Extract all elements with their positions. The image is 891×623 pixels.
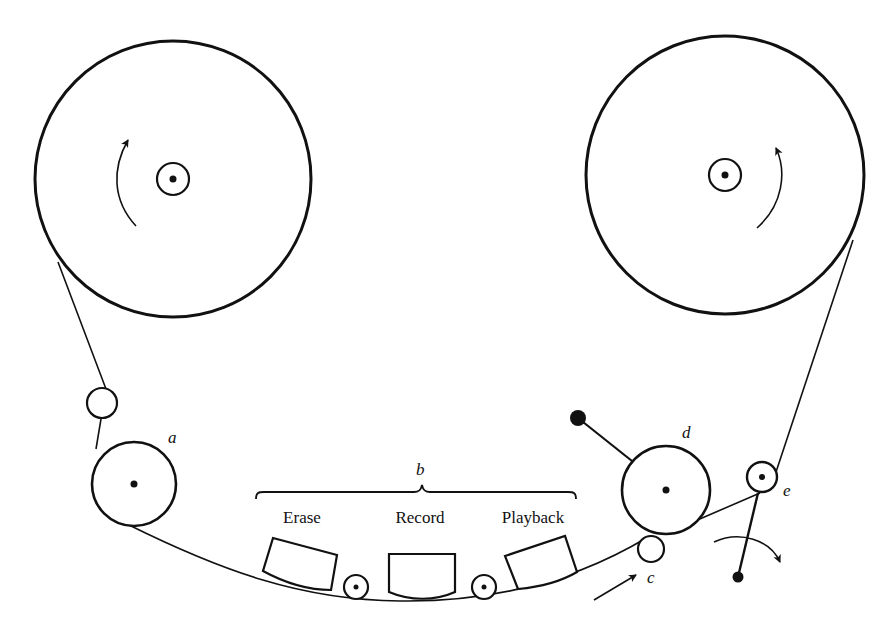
capstan-arm-pivot xyxy=(570,410,586,426)
counterclockwise-arrow-icon xyxy=(117,140,136,226)
heads-brace xyxy=(256,485,576,499)
label-erase: Erase xyxy=(283,508,321,528)
tape-path xyxy=(58,240,853,601)
supply-reel-spindle xyxy=(170,176,177,183)
guide-roller-1 xyxy=(344,575,368,599)
takeup-reel xyxy=(586,36,864,314)
label-b: b xyxy=(416,460,425,480)
roller-a xyxy=(92,442,176,526)
tape-transport-diagram: a b c d e Erase Record Playback xyxy=(0,0,891,623)
label-a: a xyxy=(168,428,177,448)
pinch-roller-c xyxy=(638,536,664,562)
guide-roller-2 xyxy=(472,575,496,599)
tension-arm-e xyxy=(714,462,780,583)
takeup-reel-spindle xyxy=(722,172,729,179)
tension-arm-pivot xyxy=(733,572,744,583)
label-d: d xyxy=(682,423,691,443)
playback-head xyxy=(505,536,577,589)
label-c: c xyxy=(647,568,655,588)
diagram-canvas xyxy=(0,0,891,623)
label-record: Record xyxy=(395,508,444,528)
label-e: e xyxy=(783,481,791,501)
erase-head xyxy=(263,538,337,590)
record-head xyxy=(389,554,455,599)
clockwise-arrow-icon xyxy=(757,148,782,228)
tension-idler xyxy=(87,388,117,418)
pinch-direction-arrow-icon xyxy=(594,575,636,600)
supply-reel xyxy=(35,41,311,317)
label-playback: Playback xyxy=(502,508,564,528)
